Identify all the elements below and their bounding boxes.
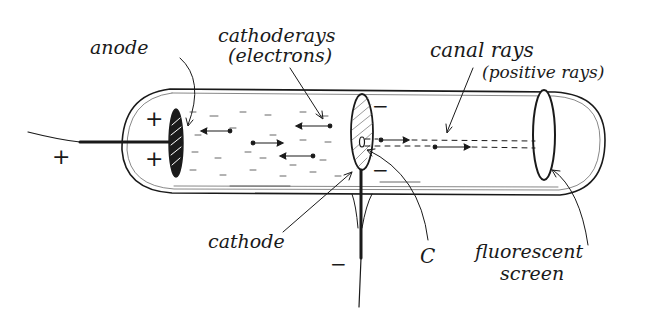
cathode-wire-minus-sign: − [330,254,347,274]
anode-label: anode [90,38,148,57]
canal-rays-sublabel: (positive rays) [482,64,604,81]
cathode-bottom-minus-sign: − [372,160,389,180]
screen-label: screen [500,264,564,283]
cathode-top-minus-sign: − [372,96,389,116]
cathode-label: cathode [208,232,285,251]
anode-wire [28,132,170,142]
cathode-hole [360,137,365,147]
anode-bottom-plus-sign: + [145,148,163,170]
anode-wire-plus-sign: + [52,146,70,168]
cathode-rays-label: cathoderays [218,26,336,45]
anode-top-plus-sign: + [145,108,163,130]
fluorescent-label: fluorescent [475,242,583,261]
cathode-rays-sublabel: (electrons) [228,46,332,65]
electron-arrows [201,123,332,159]
cathode-stem [352,170,372,307]
canal-ray-arrows [365,137,535,150]
canal-rays-label: canal rays [430,40,534,60]
anode-disk [169,109,183,177]
c-label: C [420,246,435,266]
leader-lines [180,58,588,245]
fluorescent-screen [533,90,555,180]
cathode-disk [351,94,373,170]
